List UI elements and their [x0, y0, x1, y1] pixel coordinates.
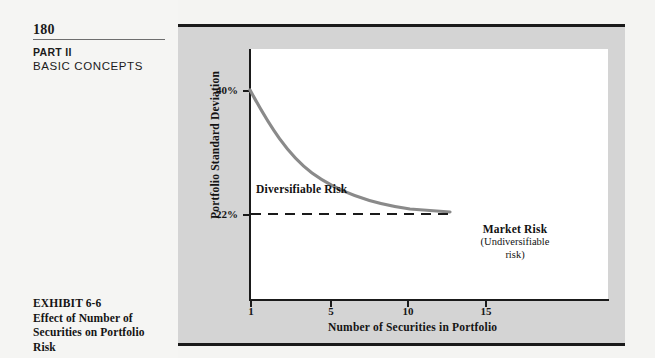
y-axis-tick-22 [243, 214, 250, 216]
x-axis-tick-label-15: 15 [476, 305, 496, 317]
market-risk-annotation: Market Risk (Undiversifiable risk) [460, 223, 570, 261]
part-label: PART II [33, 45, 165, 59]
page-header-block: 180 PART II BASIC CONCEPTS [33, 22, 165, 74]
figure-panel: 40% 22% 1 5 10 15 Portfolio Standard Dev… [178, 24, 625, 346]
y-axis-title: Portfolio Standard Deviation [209, 60, 221, 230]
page-text-column: 180 PART II BASIC CONCEPTS EXHIBIT 6-6 E… [0, 0, 178, 358]
section-label: BASIC CONCEPTS [33, 59, 165, 74]
x-axis-tick-label-5: 5 [321, 305, 341, 317]
exhibit-title-line-3: Risk [33, 340, 173, 355]
x-axis-tick-label-10: 10 [398, 305, 418, 317]
page-number: 180 [33, 22, 165, 37]
x-axis-line [249, 299, 609, 301]
header-rule [33, 39, 165, 40]
y-axis-tick-40 [243, 90, 250, 92]
plot-area [250, 49, 608, 299]
x-axis-title: Number of Securities in Portfolio [328, 321, 497, 333]
exhibit-number: EXHIBIT 6-6 [33, 296, 173, 311]
market-risk-annotation-subtitle-line-1: (Undiversifiable [460, 236, 570, 249]
market-risk-annotation-subtitle-line-2: risk) [460, 249, 570, 262]
y-axis-line [249, 49, 251, 301]
diversifiable-risk-annotation: Diversifiable Risk [256, 183, 347, 195]
exhibit-title-line-1: Effect of Number of [33, 311, 173, 326]
x-axis-tick-label-1: 1 [241, 305, 261, 317]
market-risk-annotation-title: Market Risk [460, 223, 570, 236]
exhibit-title-line-2: Securities on Portfolio [33, 325, 173, 340]
exhibit-caption: EXHIBIT 6-6 Effect of Number of Securiti… [33, 296, 173, 354]
